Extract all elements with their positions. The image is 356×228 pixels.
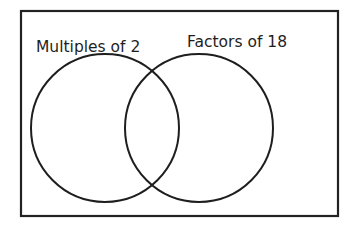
venn-diagram: Multiples of 2 Factors of 18 <box>0 0 356 228</box>
set-label-multiples-of-2: Multiples of 2 <box>36 38 140 56</box>
set-label-factors-of-18: Factors of 18 <box>187 33 287 51</box>
set-circle-factors-of-18 <box>125 54 273 202</box>
set-circle-multiples-of-2 <box>31 54 179 202</box>
